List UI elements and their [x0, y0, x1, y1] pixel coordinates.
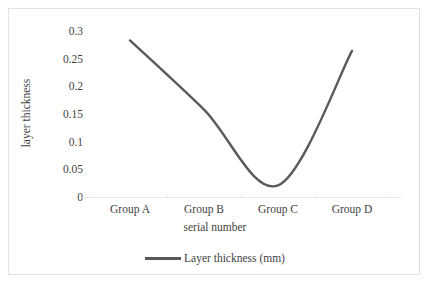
x-axis-tick-labels: Group AGroup BGroup CGroup D	[81, 203, 401, 221]
y-axis-tick-label: 0.25	[63, 53, 83, 64]
x-axis-tick-mark	[389, 194, 390, 198]
y-axis-tick-label: 0.3	[69, 26, 83, 37]
x-axis-title: serial number	[9, 221, 421, 233]
y-axis-tick-labels: 0.30.250.20.150.10.050	[39, 9, 83, 276]
x-axis-tick-mark	[167, 194, 168, 198]
x-axis-tick-label: Group D	[332, 203, 373, 215]
plot-area	[93, 31, 389, 197]
series-line-layer-thickness	[130, 40, 352, 186]
y-axis-tick-label: 0.1	[69, 136, 83, 147]
legend-line-marker-icon	[145, 257, 181, 260]
y-axis-tick-label: 0.2	[69, 81, 83, 92]
legend-item-label: Layer thickness (mm)	[184, 252, 285, 264]
chart-container: layer thickness 0.30.250.20.150.10.050 G…	[8, 8, 420, 275]
x-axis-tick-label: Group A	[110, 203, 150, 215]
chart-legend: Layer thickness (mm)	[9, 252, 421, 264]
x-axis-tick-mark	[241, 194, 242, 198]
y-axis-tick-label: 0.15	[63, 109, 83, 120]
x-axis-tick-label: Group C	[258, 203, 298, 215]
y-axis-title: layer thickness	[20, 63, 32, 163]
x-axis-tick-mark	[315, 194, 316, 198]
x-axis-tick-mark	[93, 194, 94, 198]
y-axis-tick-label: 0.05	[63, 164, 83, 175]
line-series-svg	[93, 31, 389, 197]
x-axis-tick-label: Group B	[184, 203, 224, 215]
